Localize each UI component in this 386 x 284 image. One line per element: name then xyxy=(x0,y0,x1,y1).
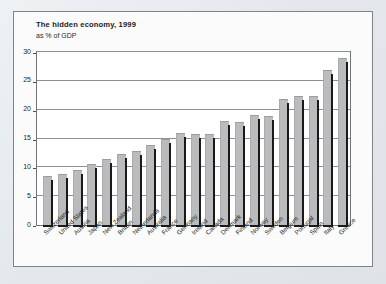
y-axis: 051015202530 xyxy=(14,48,36,230)
bar-shadow xyxy=(110,163,112,227)
chart-subtitle: as % of GDP xyxy=(36,31,336,41)
bar-shadow xyxy=(287,103,289,227)
bar-finland xyxy=(234,120,245,225)
y-tick-label-20: 20 xyxy=(23,105,31,112)
bar-shadow xyxy=(317,100,319,227)
bar-portugal xyxy=(293,94,304,225)
bar-denmark xyxy=(219,119,230,225)
chart-figure: The hidden economy, 1999 as % of GDP 051… xyxy=(13,11,373,267)
bars-container xyxy=(40,52,347,225)
bar-japan xyxy=(86,162,97,225)
bar-shadow xyxy=(243,126,245,227)
plot-area xyxy=(36,51,351,226)
bar-belgium xyxy=(278,97,289,225)
bar-shadow xyxy=(228,125,230,227)
bar-ireland xyxy=(190,132,201,225)
bar-shadow xyxy=(346,62,348,227)
bar-shadow xyxy=(140,155,142,227)
bar-shadow xyxy=(331,74,333,227)
bar-shadow xyxy=(169,143,171,228)
bar-shadow xyxy=(184,137,186,227)
bar-norway xyxy=(249,113,260,225)
bar-shadow xyxy=(302,100,304,227)
bar-germany xyxy=(175,131,186,225)
y-tick-label-15: 15 xyxy=(23,134,31,141)
bar-greece xyxy=(337,56,348,225)
bar-shadow xyxy=(272,120,274,227)
y-tick-label-10: 10 xyxy=(23,162,31,169)
x-axis: SwitzerlandUnited StatesAustriaJapanNew … xyxy=(36,227,366,273)
bar-shadow xyxy=(199,138,201,227)
bar-italy xyxy=(322,68,333,225)
chart-header: The hidden economy, 1999 as % of GDP xyxy=(36,20,336,41)
bar-shadow xyxy=(258,119,260,227)
chart-title: The hidden economy, 1999 xyxy=(36,20,336,30)
bar-france xyxy=(160,137,171,226)
bar-canada xyxy=(204,132,215,225)
bar-new-zealand xyxy=(101,157,112,225)
bar-shadow xyxy=(213,138,215,227)
y-tick-label-30: 30 xyxy=(23,47,31,54)
y-tick-label-25: 25 xyxy=(23,76,31,83)
bar-spain xyxy=(308,94,319,225)
bar-switzerland xyxy=(42,174,53,225)
bar-sweden xyxy=(263,114,274,225)
bar-netherlands xyxy=(131,149,142,225)
y-tick-label-0: 0 xyxy=(27,220,31,227)
y-tick-label-5: 5 xyxy=(27,191,31,198)
